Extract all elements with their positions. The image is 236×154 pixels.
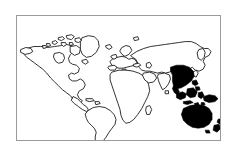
landmass-philippines-1 <box>192 80 198 86</box>
landmass-iberia <box>108 65 117 70</box>
landmass-new-guinea <box>203 95 218 103</box>
landmass-sumatra <box>176 92 186 100</box>
landmass-baffin-island <box>70 46 80 56</box>
landmass-sri-lanka <box>166 91 169 94</box>
landmass-new-zealand-south <box>213 124 220 132</box>
landmass-scandinavia <box>120 46 132 57</box>
landmass-australia <box>181 105 212 129</box>
landmass-arctic-island-6 <box>69 43 73 46</box>
landmass-new-zealand-north <box>217 118 220 124</box>
landmass-madagascar <box>146 106 152 115</box>
landmass-southeast-asia <box>170 65 194 89</box>
map-frame <box>16 15 221 141</box>
landmass-greenland <box>80 36 99 58</box>
world-map-figure: Outline world map; Asia-Pacific region s… <box>0 0 236 154</box>
landmass-india <box>158 73 171 90</box>
landmass-arctic-island-8 <box>43 46 47 49</box>
landmass-arctic-island-2 <box>67 35 75 40</box>
landmass-newfoundland <box>82 59 88 64</box>
landmass-java <box>183 101 193 105</box>
landmass-arctic-island-7 <box>47 44 51 47</box>
landmass-cuba <box>86 99 94 102</box>
landmass-tasmania <box>205 130 210 133</box>
landmass-south-america <box>85 107 116 140</box>
landmass-svalbard <box>134 37 139 41</box>
landmass-arctic-island-4 <box>53 41 58 45</box>
landmass-arctic-island-1 <box>59 37 65 41</box>
landmass-iceland <box>106 45 112 50</box>
world-map-svg <box>17 16 220 140</box>
landmass-hispaniola <box>95 102 100 105</box>
